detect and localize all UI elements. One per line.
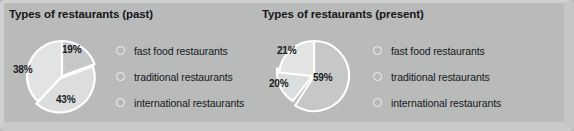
pie-label-present-international: 21%	[277, 45, 296, 56]
legend-item-past-international[interactable]: international restaurants	[116, 95, 244, 110]
panel-present: Types of restaurants (present) 59% 20% 2…	[260, 0, 574, 131]
legend-item-present-international[interactable]: international restaurants	[373, 95, 501, 110]
legend-item-past-traditional[interactable]: traditional restaurants	[116, 69, 244, 84]
legend-item-past-fast-food[interactable]: fast food restaurants	[116, 43, 244, 58]
pie-label-past-international: 38%	[13, 64, 32, 75]
pie-label-past-fast-food: 19%	[62, 44, 81, 55]
pie-label-past-traditional: 43%	[56, 94, 75, 105]
legend-label-present-international: international restaurants	[391, 97, 501, 109]
circle-outline-icon	[116, 72, 125, 81]
circle-outline-icon	[373, 72, 382, 81]
legend-label-past-fast-food: fast food restaurants	[134, 45, 228, 57]
legend-label-present-fast-food: fast food restaurants	[391, 45, 485, 57]
circle-outline-icon	[373, 98, 382, 107]
legend-label-past-international: international restaurants	[134, 97, 244, 109]
legend-item-present-fast-food[interactable]: fast food restaurants	[373, 43, 501, 58]
legend-label-present-traditional: traditional restaurants	[391, 71, 490, 83]
pie-label-present-fast-food: 59%	[313, 72, 332, 83]
legend-past: fast food restaurants traditional restau…	[116, 43, 244, 121]
circle-outline-icon	[116, 46, 125, 55]
legend-present: fast food restaurants traditional restau…	[373, 43, 501, 121]
circle-outline-icon	[373, 46, 382, 55]
circle-outline-icon	[116, 98, 125, 107]
figure-root: Types of restaurants (past) 19% 43% 38% …	[0, 0, 574, 131]
panel-past: Types of restaurants (past) 19% 43% 38% …	[0, 0, 287, 131]
panel-past-title: Types of restaurants (past)	[9, 8, 153, 20]
legend-item-present-traditional[interactable]: traditional restaurants	[373, 69, 501, 84]
panel-present-title: Types of restaurants (present)	[262, 8, 424, 20]
pie-label-present-traditional: 20%	[269, 78, 288, 89]
legend-label-past-traditional: traditional restaurants	[134, 71, 233, 83]
